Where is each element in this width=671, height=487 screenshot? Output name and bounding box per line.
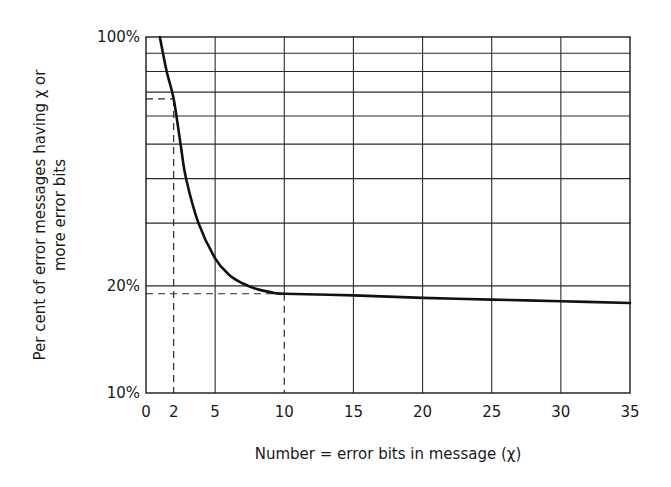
x-tick-label: 35 [620,403,639,421]
x-tick-label: 20 [413,403,432,421]
y-axis-title-line1: Per cent of error messages having χ or [31,69,49,361]
y-tick-label: 10% [107,384,140,402]
x-tick-label: 0 [141,403,151,421]
x-tick-label: 30 [551,403,570,421]
x-tick-label: 25 [482,403,501,421]
x-tick-label: 15 [344,403,363,421]
plot-frame [146,37,630,393]
y-axis-title-line2: more error bits [51,159,69,271]
gridlines [146,37,630,393]
data-curve [160,37,630,303]
x-axis-tick-labels: 025101520253035 [141,403,639,421]
x-tick-label: 2 [169,403,179,421]
y-axis-tick-labels: 100%20%10% [97,28,140,402]
chart-canvas: 025101520253035 100%20%10% Number = erro… [0,0,671,487]
y-tick-label: 20% [107,277,140,295]
x-tick-label: 5 [210,403,220,421]
x-tick-label: 10 [275,403,294,421]
y-tick-label: 100% [97,28,140,46]
y-axis-title: Per cent of error messages having χ or m… [31,69,69,361]
x-axis-title: Number = error bits in message (χ) [255,445,522,463]
